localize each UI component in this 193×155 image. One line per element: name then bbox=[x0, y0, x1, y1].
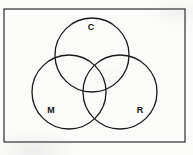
venn-diagram-figure: C M R bbox=[0, 0, 193, 155]
set-label-r: R bbox=[137, 105, 144, 115]
set-label-m: M bbox=[47, 105, 55, 115]
set-label-c: C bbox=[88, 22, 95, 32]
venn-diagram-canvas: C M R bbox=[0, 0, 193, 155]
diagram-border-rectangle bbox=[4, 9, 185, 142]
